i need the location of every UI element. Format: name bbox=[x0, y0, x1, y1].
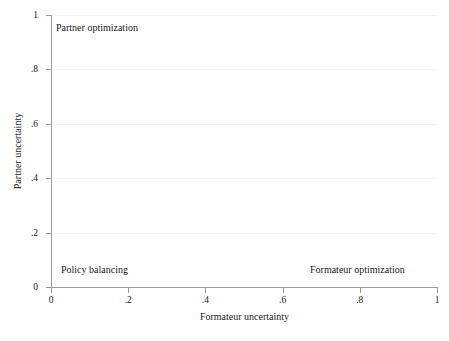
x-tick-mark-0 bbox=[51, 288, 52, 293]
annotation-policy-balancing: Policy balancing bbox=[61, 264, 128, 276]
y-tick-mark-0-6 bbox=[46, 124, 51, 125]
x-tick-label-0-2: .2 bbox=[108, 295, 148, 305]
y-tick-mark-0-4 bbox=[46, 178, 51, 179]
x-axis-title: Formateur uncertainty bbox=[51, 311, 438, 323]
y-tick-label-0: 0 bbox=[8, 282, 38, 292]
x-tick-mark-0-6 bbox=[283, 288, 284, 293]
y-axis-title: Partner uncertainty bbox=[12, 61, 24, 241]
y-axis-line bbox=[51, 15, 52, 288]
y-tick-mark-1 bbox=[46, 15, 51, 16]
x-tick-mark-0-2 bbox=[128, 288, 129, 293]
x-tick-label-0-4: .4 bbox=[185, 295, 225, 305]
plot-area bbox=[51, 15, 437, 287]
x-tick-label-0-6: .6 bbox=[263, 295, 303, 305]
gridline-y-0-6 bbox=[51, 124, 437, 125]
gridline-y-0-2 bbox=[51, 233, 437, 234]
x-tick-mark-0-4 bbox=[205, 288, 206, 293]
annotation-formateur-optimization: Formateur optimization bbox=[310, 264, 405, 276]
x-tick-label-0: 0 bbox=[31, 295, 71, 305]
x-axis-line bbox=[51, 287, 438, 288]
y-tick-mark-0-8 bbox=[46, 69, 51, 70]
chart-figure: 1 .8 .6 .4 .2 0 0 .2 .4 .6 .8 1 Formateu… bbox=[0, 0, 449, 341]
y-tick-label-1: 1 bbox=[8, 10, 38, 20]
caption-sliver bbox=[0, 334, 449, 341]
gridline-y-0-8 bbox=[51, 69, 437, 70]
x-tick-mark-1 bbox=[437, 288, 438, 293]
gridline-y-1 bbox=[51, 15, 437, 16]
x-tick-label-0-8: .8 bbox=[340, 295, 380, 305]
x-tick-mark-0-8 bbox=[360, 288, 361, 293]
gridline-y-0-4 bbox=[51, 178, 437, 179]
y-tick-mark-0-2 bbox=[46, 233, 51, 234]
annotation-partner-optimization: Partner optimization bbox=[56, 22, 138, 34]
x-tick-label-1: 1 bbox=[417, 295, 449, 305]
